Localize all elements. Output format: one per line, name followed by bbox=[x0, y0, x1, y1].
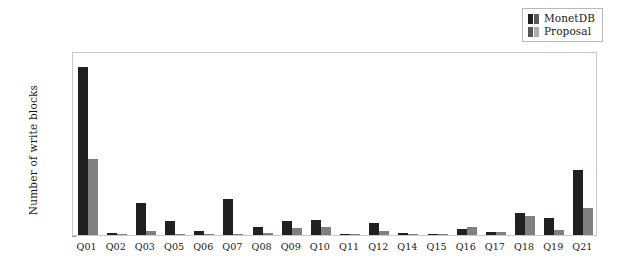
bar-proposal-q02 bbox=[117, 234, 127, 235]
bar-proposal-q08 bbox=[263, 233, 273, 235]
bar-group bbox=[193, 52, 215, 235]
bar-group bbox=[222, 52, 244, 235]
bar-group bbox=[164, 52, 186, 235]
bar-monetdb-q16 bbox=[457, 229, 467, 235]
bar-monetdb-q11 bbox=[340, 234, 350, 235]
bar-monetdb-q18 bbox=[515, 213, 525, 235]
bar-monetdb-q14 bbox=[398, 233, 408, 235]
bar-monetdb-q21 bbox=[573, 170, 583, 235]
x-tick-label: Q07 bbox=[222, 241, 242, 252]
bar-group bbox=[572, 52, 594, 235]
bar-group bbox=[135, 52, 157, 235]
bar-monetdb-q01 bbox=[78, 67, 88, 235]
bar-proposal-q07 bbox=[233, 234, 243, 235]
x-tick-label: Q17 bbox=[485, 241, 505, 252]
x-tick-label: Q14 bbox=[397, 241, 417, 252]
bar-proposal-q10 bbox=[321, 227, 331, 235]
bar-monetdb-q05 bbox=[165, 221, 175, 235]
bar-monetdb-q17 bbox=[486, 232, 496, 235]
x-tick-label: Q16 bbox=[456, 241, 476, 252]
bar-proposal-q03 bbox=[146, 231, 156, 235]
x-tick-label: Q01 bbox=[77, 241, 97, 252]
x-tick-label: Q02 bbox=[106, 241, 126, 252]
x-tick-label: Q19 bbox=[543, 241, 563, 252]
bar-group bbox=[281, 52, 303, 235]
x-tick-label: Q08 bbox=[252, 241, 272, 252]
x-tick-label: Q09 bbox=[281, 241, 301, 252]
x-tick-label: Q05 bbox=[164, 241, 184, 252]
bar-monetdb-q09 bbox=[282, 221, 292, 235]
bar-group bbox=[339, 52, 361, 235]
bar-monetdb-q08 bbox=[253, 227, 263, 235]
bar-group bbox=[456, 52, 478, 235]
bar-monetdb-q15 bbox=[428, 234, 438, 235]
bar-proposal-q14 bbox=[408, 234, 418, 235]
bar-proposal-q19 bbox=[554, 230, 564, 235]
bar-monetdb-q02 bbox=[107, 233, 117, 235]
bar-monetdb-q07 bbox=[223, 199, 233, 235]
bar-proposal-q09 bbox=[292, 228, 302, 235]
bar-proposal-q17 bbox=[496, 232, 506, 235]
x-tick-label: Q10 bbox=[310, 241, 330, 252]
bar-monetdb-q19 bbox=[544, 218, 554, 235]
bar-group bbox=[485, 52, 507, 235]
x-tick-label: Q12 bbox=[368, 241, 388, 252]
bar-proposal-q06 bbox=[204, 234, 214, 235]
bar-group bbox=[368, 52, 390, 235]
bar-monetdb-q03 bbox=[136, 203, 146, 235]
bar-group bbox=[427, 52, 449, 235]
x-tick-label: Q15 bbox=[427, 241, 447, 252]
bar-group bbox=[106, 52, 128, 235]
bar-monetdb-q06 bbox=[194, 231, 204, 235]
x-tick-label: Q03 bbox=[135, 241, 155, 252]
bar-group bbox=[543, 52, 565, 235]
bar-proposal-q18 bbox=[525, 216, 535, 235]
bar-proposal-q12 bbox=[379, 231, 389, 235]
bar-proposal-q15 bbox=[438, 234, 448, 235]
x-tick-label: Q11 bbox=[339, 241, 359, 252]
chart-figure: MonetDB Proposal Number of write blocks … bbox=[0, 0, 617, 265]
bar-proposal-q01 bbox=[88, 159, 98, 235]
bar-group bbox=[77, 52, 99, 235]
x-tick-label: Q18 bbox=[514, 241, 534, 252]
bar-proposal-q16 bbox=[467, 227, 477, 235]
bar-monetdb-q10 bbox=[311, 220, 321, 235]
bar-proposal-q11 bbox=[350, 234, 360, 235]
bar-monetdb-q12 bbox=[369, 223, 379, 235]
bar-group bbox=[310, 52, 332, 235]
x-tick-label: Q21 bbox=[572, 241, 592, 252]
bar-group bbox=[514, 52, 536, 235]
plot-area bbox=[72, 52, 597, 236]
bar-proposal-q21 bbox=[583, 208, 593, 235]
x-tick-label: Q06 bbox=[193, 241, 213, 252]
bar-group bbox=[252, 52, 274, 235]
bar-proposal-q05 bbox=[175, 234, 185, 235]
y-tick-mark bbox=[72, 236, 76, 237]
bar-group bbox=[397, 52, 419, 235]
